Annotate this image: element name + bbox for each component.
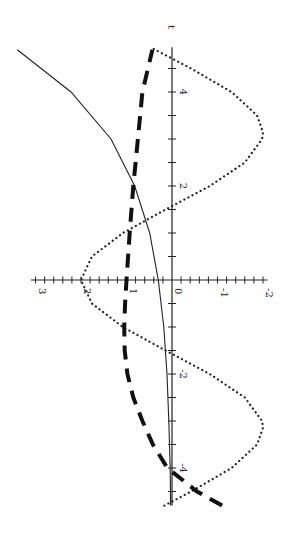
value-tick-label: 1 [128, 288, 139, 294]
value-tick-label: 2 [82, 288, 93, 294]
t-axis-label: t [166, 25, 177, 29]
t-tick-label: 2 [178, 183, 189, 189]
t-tick-label: -4 [178, 463, 189, 473]
t-tick-label: -2 [178, 369, 189, 379]
tick-labels: 42-2-43210-1-2t [37, 25, 276, 473]
value-tick-label: 3 [37, 288, 48, 294]
value-tick-label: -2 [264, 288, 275, 298]
rotated-function-plot: 42-2-43210-1-2t [0, 0, 283, 550]
t-tick-label: 4 [178, 89, 189, 95]
curve-dashed [124, 50, 222, 506]
value-tick-label: 0 [173, 288, 184, 294]
curves [17, 47, 263, 505]
value-tick-label: -1 [219, 288, 230, 298]
